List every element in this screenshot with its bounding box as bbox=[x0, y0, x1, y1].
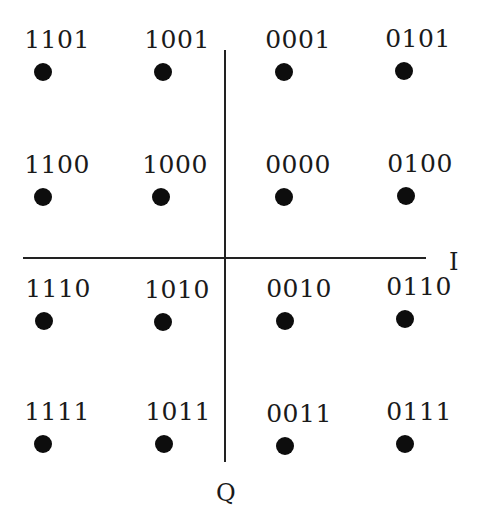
constellation-point-dot bbox=[275, 63, 293, 81]
constellation-point-dot bbox=[155, 435, 173, 453]
constellation-diagram: I Q 110110010001010111001000000001001110… bbox=[0, 0, 477, 531]
constellation-point-label: 0010 bbox=[266, 276, 332, 301]
constellation-point-label: 0001 bbox=[265, 27, 331, 52]
constellation-point-label: 1010 bbox=[144, 277, 210, 302]
constellation-point-label: 1000 bbox=[142, 152, 208, 177]
constellation-point-label: 1100 bbox=[24, 152, 90, 177]
constellation-point-label: 1111 bbox=[24, 399, 90, 424]
constellation-point-label: 1011 bbox=[145, 399, 211, 424]
constellation-point-label: 0100 bbox=[387, 151, 453, 176]
constellation-point-dot bbox=[35, 312, 53, 330]
constellation-point-label: 0000 bbox=[265, 152, 331, 177]
constellation-point-label: 0111 bbox=[386, 399, 452, 424]
constellation-point-dot bbox=[396, 435, 414, 453]
constellation-point-label: 1101 bbox=[24, 27, 90, 52]
constellation-point-label: 0101 bbox=[385, 26, 451, 51]
constellation-point-label: 0011 bbox=[266, 401, 332, 426]
constellation-point-dot bbox=[276, 437, 294, 455]
constellation-point-dot bbox=[154, 63, 172, 81]
constellation-point-dot bbox=[397, 187, 415, 205]
constellation-point-label: 0110 bbox=[386, 274, 452, 299]
constellation-point-label: 1001 bbox=[144, 27, 210, 52]
constellation-point-label: 1110 bbox=[25, 276, 91, 301]
constellation-point-dot bbox=[276, 312, 294, 330]
constellation-point-dot bbox=[34, 188, 52, 206]
i-axis-line bbox=[23, 257, 426, 259]
constellation-point-dot bbox=[395, 62, 413, 80]
constellation-point-dot bbox=[275, 188, 293, 206]
constellation-point-dot bbox=[154, 313, 172, 331]
q-axis-label: Q bbox=[216, 481, 236, 505]
constellation-point-dot bbox=[396, 310, 414, 328]
i-axis-label: I bbox=[449, 250, 458, 274]
constellation-point-dot bbox=[152, 188, 170, 206]
constellation-point-dot bbox=[34, 435, 52, 453]
q-axis-line bbox=[224, 50, 226, 462]
constellation-point-dot bbox=[34, 63, 52, 81]
